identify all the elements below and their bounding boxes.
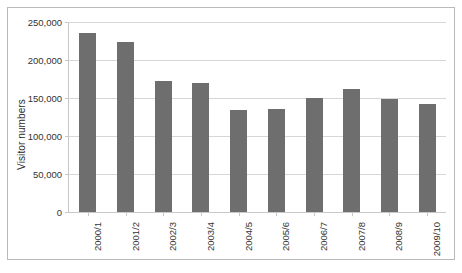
y-axis-tick-label: 250,000	[28, 17, 62, 28]
x-axis-tick-label: 2008/9	[393, 218, 404, 273]
x-axis-tick-label: 2009/10	[431, 218, 442, 273]
gridline	[69, 22, 446, 23]
x-axis-tick	[201, 212, 202, 216]
bar	[117, 42, 134, 212]
x-axis-tick	[389, 212, 390, 216]
x-axis-tick	[163, 212, 164, 216]
x-axis-tick	[88, 212, 89, 216]
y-axis-tick-label: 150,000	[28, 93, 62, 104]
x-axis-tick	[239, 212, 240, 216]
y-axis-tick-label: 50,000	[33, 169, 62, 180]
y-axis-tick	[65, 174, 69, 175]
x-axis-tick	[427, 212, 428, 216]
bar-chart-figure: Visitor numbers 050,000100,000150,000200…	[7, 7, 455, 260]
x-axis-tick	[352, 212, 353, 216]
y-axis-tick	[65, 98, 69, 99]
x-axis-tick-label: 2003/4	[205, 218, 216, 273]
bar	[381, 99, 398, 212]
y-axis-tick-label: 200,000	[28, 55, 62, 66]
x-axis-tick	[126, 212, 127, 216]
x-axis-tick-label: 2007/8	[356, 218, 367, 273]
x-axis-tick-label: 2002/3	[167, 218, 178, 273]
bar	[230, 110, 247, 212]
bar	[268, 109, 285, 212]
x-axis-tick-label: 2000/1	[92, 218, 103, 273]
y-axis-title-label: Visitor numbers	[16, 99, 27, 170]
x-axis-tick-label: 2005/6	[280, 218, 291, 273]
bar	[306, 98, 323, 212]
y-axis-tick	[65, 60, 69, 61]
y-axis-tick	[65, 136, 69, 137]
bar	[419, 104, 436, 212]
bar	[79, 33, 96, 212]
x-axis-tick-label: 2001/2	[130, 218, 141, 273]
y-axis-tick	[65, 22, 69, 23]
x-axis-tick-label: 2004/5	[243, 218, 254, 273]
x-axis-tick	[314, 212, 315, 216]
x-axis-tick-label: 2006/7	[318, 218, 329, 273]
x-axis-tick	[276, 212, 277, 216]
y-axis-tick	[65, 212, 69, 213]
plot-area: 050,000100,000150,000200,000250,0002000/…	[68, 22, 446, 213]
bar	[343, 89, 360, 212]
y-axis-tick-label: 100,000	[28, 131, 62, 142]
bar	[192, 83, 209, 212]
y-axis-tick-label: 0	[57, 207, 62, 218]
bar	[155, 81, 172, 212]
